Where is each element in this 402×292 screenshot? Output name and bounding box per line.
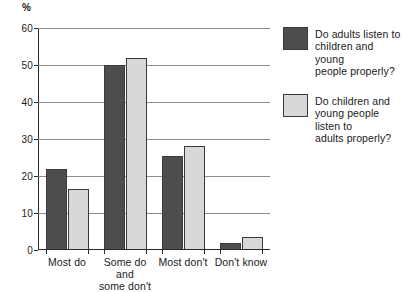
x-axis-category-label: Some do and some don't — [96, 256, 154, 292]
bar-group: Most don't — [162, 28, 205, 250]
y-axis-tick-label: 0 — [27, 245, 33, 256]
plot-area: 0102030405060Most doSome do and some don… — [38, 28, 270, 250]
y-axis-tick-mark — [34, 213, 38, 214]
legend-label: Do children and young people listen to a… — [315, 94, 391, 144]
x-axis-tick-mark — [220, 250, 221, 254]
x-axis-category-label: Most don't — [154, 256, 212, 268]
bar[interactable] — [46, 169, 67, 250]
legend-item[interactable]: Do adults listen to children and young p… — [283, 27, 401, 77]
bar-group: Some do and some don't — [104, 28, 147, 250]
x-axis-tick-mark — [46, 250, 47, 254]
bar[interactable] — [126, 58, 147, 250]
y-axis-tick-label: 50 — [21, 60, 33, 71]
legend-item[interactable]: Do children and young people listen to a… — [283, 94, 401, 144]
y-axis-unit-label: % — [22, 2, 31, 13]
bar[interactable] — [184, 146, 205, 250]
chart-legend: Do adults listen to children and young p… — [283, 27, 401, 161]
x-axis-tick-mark — [88, 250, 89, 254]
y-axis-tick-mark — [34, 139, 38, 140]
legend-color-swatch — [283, 27, 308, 50]
y-axis-tick-label: 30 — [21, 134, 33, 145]
legend-color-swatch — [283, 94, 308, 117]
bar-group: Most do — [46, 28, 89, 250]
y-axis-tick-mark — [34, 102, 38, 103]
x-axis-tick-mark — [104, 250, 105, 254]
y-axis-tick-label: 20 — [21, 171, 33, 182]
bar[interactable] — [162, 156, 183, 250]
x-axis-tick-mark — [204, 250, 205, 254]
bar[interactable] — [68, 189, 89, 250]
bar[interactable] — [242, 237, 263, 250]
legend-label: Do adults listen to children and young p… — [315, 27, 401, 77]
y-axis-tick-label: 10 — [21, 208, 33, 219]
x-axis-tick-mark — [262, 250, 263, 254]
bar[interactable] — [220, 243, 241, 250]
y-axis-tick-label: 60 — [21, 23, 33, 34]
y-axis-tick-mark — [34, 28, 38, 29]
y-axis-tick-label: 40 — [21, 97, 33, 108]
x-axis-category-label: Most do — [38, 256, 96, 268]
y-axis-tick-mark — [34, 176, 38, 177]
y-axis-tick-mark — [34, 65, 38, 66]
x-axis-tick-mark — [162, 250, 163, 254]
x-axis-category-label: Don't know — [212, 256, 270, 268]
x-axis-tick-mark — [146, 250, 147, 254]
bar-group: Don't know — [220, 28, 263, 250]
bar[interactable] — [104, 65, 125, 250]
y-axis-tick-mark — [34, 250, 38, 251]
